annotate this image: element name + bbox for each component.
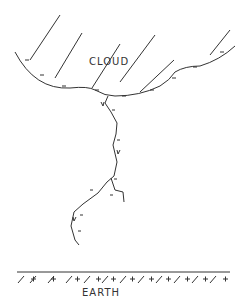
- cloud-label: CLOUD: [89, 56, 129, 67]
- cloud-base: [15, 46, 235, 96]
- earth-label: EARTH: [82, 287, 120, 298]
- earth: [17, 272, 230, 283]
- lightning-diagram: [0, 0, 248, 306]
- lightning-leader: [71, 96, 124, 245]
